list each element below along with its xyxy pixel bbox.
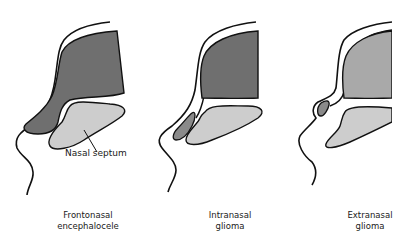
- caption-line-2: glioma: [335, 221, 397, 232]
- brain: [201, 31, 258, 98]
- nasal-septum: [326, 107, 392, 148]
- nasal-septum-label: Nasal septum: [65, 148, 127, 158]
- caption-line-1: Intranasal: [195, 210, 265, 221]
- caption-line-2: glioma: [195, 221, 265, 232]
- caption-line-1: Frontonasal: [48, 210, 128, 221]
- extranasal-mass: [318, 101, 330, 116]
- nasal-septum: [186, 106, 262, 145]
- panel-extranasal-glioma: [299, 22, 392, 185]
- caption-line-1: Extranasal: [335, 210, 397, 221]
- caption-intranasal-glioma: Intranasal glioma: [195, 210, 265, 232]
- caption-frontonasal-encephalocele: Frontonasal encephalocele: [48, 210, 128, 232]
- caption-extranasal-glioma: Extranasal glioma: [335, 210, 397, 232]
- panel-frontonasal-encephalocele: [16, 22, 124, 195]
- panel-intranasal-glioma: [159, 22, 262, 192]
- brain: [343, 31, 392, 98]
- caption-line-2: encephalocele: [48, 221, 128, 232]
